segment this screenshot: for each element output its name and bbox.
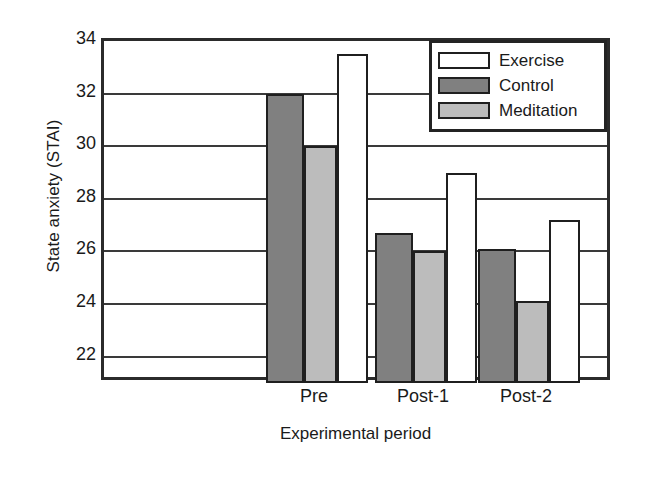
legend-item-meditation[interactable]: Meditation [438, 98, 598, 123]
x-axis-tick-labels: PrePost-1Post-2 [101, 386, 610, 416]
legend-item-control[interactable]: Control [438, 73, 598, 98]
y-tick-label-30: 30 [56, 134, 96, 152]
legend-item-label: Exercise [499, 51, 564, 71]
bar-pre-control [266, 94, 304, 383]
x-axis-title: Experimental period [101, 424, 610, 444]
bar-post-1-control [375, 233, 413, 383]
bar-chart-figure: State anxiety (STAI) 34323028262422 PreP… [0, 0, 650, 498]
chart-legend: ExerciseControlMeditation [429, 40, 607, 132]
y-tick-label-32: 32 [56, 82, 96, 100]
y-tick-label-26: 26 [56, 239, 96, 257]
y-tick-label-22: 22 [56, 345, 96, 363]
legend-swatch-exercise-icon [438, 52, 490, 69]
y-tick-label-28: 28 [56, 187, 96, 205]
legend-item-label: Meditation [499, 101, 577, 121]
y-tick-label-34: 34 [56, 29, 96, 47]
y-tick-label-24: 24 [56, 292, 96, 310]
y-axis-tick-labels: 34323028262422 [54, 0, 96, 498]
x-tick-label-post-2: Post-2 [466, 386, 586, 407]
legend-swatch-control-icon [438, 77, 490, 94]
legend-swatch-meditation-icon [438, 102, 490, 119]
legend-item-label: Control [499, 76, 554, 96]
bar-post-1-meditation [413, 251, 446, 383]
x-tick-label-pre: Pre [254, 386, 374, 407]
x-tick-label-post-1: Post-1 [363, 386, 483, 407]
legend-item-exercise[interactable]: Exercise [438, 48, 598, 73]
bar-post-2-control [478, 249, 516, 383]
bar-post-1-exercise [446, 173, 477, 383]
bar-post-2-meditation [516, 301, 549, 383]
bar-pre-meditation [304, 146, 337, 383]
bar-post-2-exercise [549, 220, 580, 383]
bar-pre-exercise [337, 54, 368, 383]
